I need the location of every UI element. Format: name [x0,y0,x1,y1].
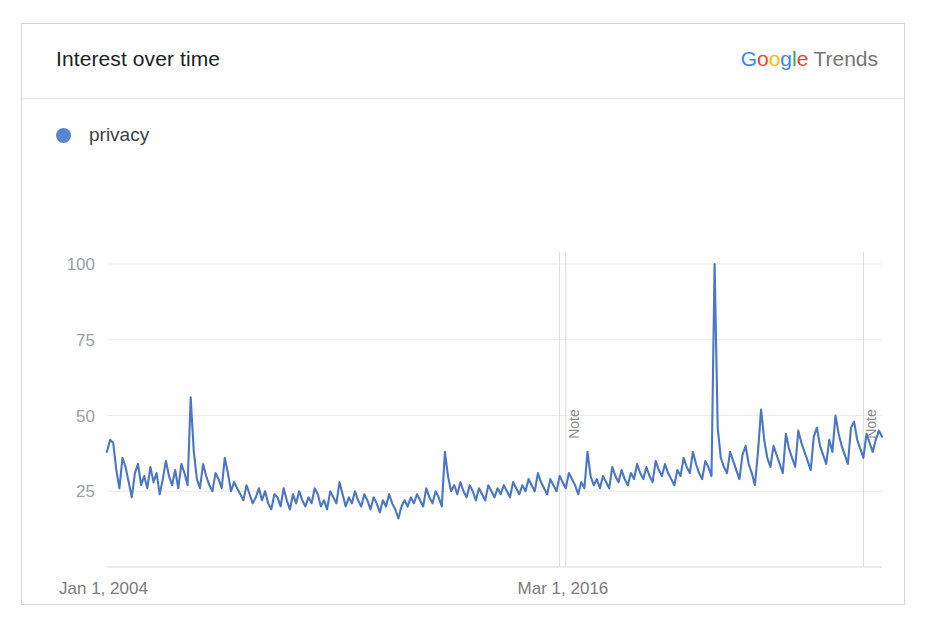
y-axis-tick-label: 75 [76,331,95,350]
y-axis-tick-label: 50 [76,407,95,426]
logo-letter-g1: G [741,47,757,70]
series-privacy-line [107,264,882,519]
logo-letter-o1: o [757,47,769,70]
interest-over-time-card: Interest over time GoogleTrends privacy … [21,23,905,605]
x-axis-tick-labels: Jan 1, 2004Mar 1, 2016 [59,252,608,598]
card-header: Interest over time GoogleTrends [22,24,904,99]
line-chart-svg: 255075100 NoteNote Jan 1, 2004Mar 1, 201… [22,24,906,606]
note-marker-label[interactable]: Note [566,409,582,439]
chart-gridlines [107,264,882,491]
logo-product-name: Trends [813,47,878,70]
note-marker-label[interactable]: Note [863,409,879,439]
chart-legend[interactable]: privacy [56,124,149,146]
page-title: Interest over time [56,47,220,71]
logo-letter-e: e [797,47,809,70]
legend-color-dot-icon [56,128,71,143]
logo-letter-o2: o [769,47,781,70]
x-axis-tick-label: Mar 1, 2016 [518,579,609,598]
y-axis-tick-label: 25 [76,482,95,501]
y-axis-tick-label: 100 [67,255,95,274]
logo-letter-g2: g [780,47,792,70]
google-trends-logo: GoogleTrends [741,47,878,71]
legend-item-label: privacy [89,124,149,146]
chart-note-markers: NoteNote [566,252,880,567]
y-axis-tick-labels: 255075100 [67,255,95,501]
x-axis-tick-label: Jan 1, 2004 [59,579,148,598]
chart-plot-area: 255075100 NoteNote Jan 1, 2004Mar 1, 201… [22,24,906,606]
